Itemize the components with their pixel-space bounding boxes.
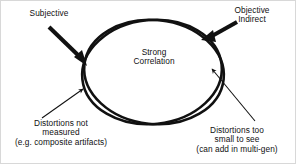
- label-distortions-not-measured: Distortions not measured (e.g. composite…: [3, 119, 119, 147]
- label-distortions-too-small-line-3: (can add in multi-gen): [179, 145, 295, 154]
- objective-indirect-arrow-icon: [201, 22, 237, 42]
- label-subjective: Subjective: [19, 9, 79, 18]
- label-strong-correlation: Strong Correlation: [118, 48, 190, 67]
- label-objective-indirect-line-2: Indirect: [216, 15, 288, 24]
- label-objective-indirect: Objective Indirect: [216, 6, 288, 25]
- label-subjective-line-1: Subjective: [19, 9, 79, 18]
- distortions-not-measured-arrow-icon: [42, 89, 83, 118]
- label-strong-correlation-line-2: Correlation: [118, 57, 190, 66]
- ellipse-subjective: [77, 13, 227, 131]
- diagram-canvas: Subjective Objective Indirect Strong Cor…: [0, 0, 296, 164]
- label-distortions-not-measured-line-3: (e.g. composite artifacts): [3, 138, 119, 147]
- label-distortions-too-small: Distortions too small to see (can add in…: [179, 126, 295, 154]
- subjective-arrow-icon: [49, 27, 87, 66]
- ellipse-objective: [79, 13, 229, 131]
